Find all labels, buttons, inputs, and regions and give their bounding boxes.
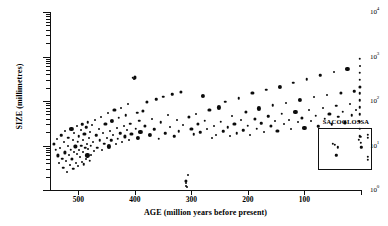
scatter-point — [285, 102, 287, 104]
scatter-point — [62, 166, 65, 169]
scatter-point — [115, 143, 117, 145]
scatter-point — [274, 120, 276, 122]
scatter-point — [169, 126, 171, 128]
scatter-point — [85, 158, 87, 160]
scatter-point — [76, 141, 79, 144]
scatter-point — [138, 130, 142, 134]
scatter-point — [187, 174, 189, 176]
scatter-point — [260, 122, 263, 125]
scatter-point — [83, 163, 86, 166]
scatter-point — [242, 129, 245, 132]
scatter-point — [355, 109, 357, 111]
scatter-point — [141, 109, 144, 112]
scatter-point — [121, 141, 123, 143]
scatter-point — [322, 107, 324, 109]
scatter-point — [244, 110, 247, 113]
scatter-point — [199, 131, 202, 134]
scatter-point — [192, 133, 195, 136]
scatter-point — [125, 114, 128, 117]
scatter-point — [123, 135, 126, 138]
scatter-point — [147, 133, 151, 137]
scatter-point — [75, 162, 77, 164]
scatter-point — [281, 112, 284, 115]
scatter-point — [84, 146, 87, 149]
scatter-point — [359, 113, 362, 116]
scatter-point — [135, 127, 138, 130]
scatter-point — [235, 132, 238, 135]
scatter-point — [301, 116, 304, 119]
scatter-point — [106, 137, 108, 139]
scatter-point — [130, 133, 133, 136]
scatter-point — [133, 76, 136, 79]
scatter-point — [94, 119, 96, 121]
scatter-point — [101, 149, 103, 151]
scatter-point — [197, 123, 200, 126]
scatter-point — [65, 160, 67, 162]
scatter-point — [240, 119, 242, 121]
scatter-point — [89, 144, 92, 147]
scatter-point — [72, 139, 74, 141]
scatter-point — [176, 119, 178, 121]
scatter-point — [112, 134, 114, 136]
scatter-point — [345, 67, 349, 71]
scatter-point — [88, 137, 90, 139]
scatter-point — [56, 138, 58, 140]
scatter-point — [190, 127, 193, 130]
scatter-point — [69, 126, 73, 130]
scatter-point — [180, 90, 183, 93]
scatter-point — [85, 153, 89, 157]
scatter-point — [342, 111, 345, 114]
scatter-point — [104, 122, 107, 125]
scatter-point — [61, 158, 64, 161]
scatter-point — [95, 134, 98, 137]
scatter-point — [359, 65, 361, 67]
scatter-point — [339, 92, 342, 95]
scatter-point — [293, 109, 297, 113]
scatter-point — [80, 144, 83, 147]
scatter-points-layer — [0, 0, 388, 226]
scatter-point — [83, 133, 86, 136]
scatter-point — [86, 143, 88, 145]
scatter-point — [90, 154, 92, 156]
scatter-point — [92, 141, 94, 143]
scatter-point — [238, 97, 241, 100]
scatter-point — [251, 92, 254, 95]
scatter-point — [107, 112, 109, 114]
scatter-point — [67, 145, 69, 147]
scatter-point — [263, 131, 265, 133]
scatter-point — [359, 99, 362, 102]
scatter-point — [60, 134, 63, 137]
scatter-point — [119, 132, 122, 135]
scatter-point — [167, 114, 169, 116]
scatter-point — [292, 81, 295, 84]
scatter-point — [88, 159, 91, 162]
scatter-point — [288, 119, 290, 121]
scatter-point — [313, 96, 315, 98]
scatter-point — [173, 135, 176, 138]
scatter-point — [319, 74, 322, 77]
scatter-point — [87, 121, 90, 124]
scatter-point — [91, 124, 93, 126]
scatter-point — [359, 79, 362, 82]
scatter-point — [253, 117, 256, 120]
scatter-point — [67, 136, 70, 139]
scatter-point — [107, 144, 111, 148]
scatter-point — [102, 132, 104, 134]
scatter-point — [335, 105, 338, 108]
scatter-point — [127, 103, 129, 105]
scatter-point — [73, 151, 75, 153]
scatter-point — [247, 124, 250, 127]
scatter-point — [204, 119, 207, 122]
scatter-point — [96, 146, 99, 149]
scatter-point — [298, 98, 302, 102]
scatter-point — [136, 136, 140, 140]
scatter-point — [211, 137, 213, 139]
scatter-point — [117, 138, 120, 141]
scatter-point — [272, 104, 275, 107]
scatter-point — [188, 115, 191, 118]
scatter-point — [359, 72, 362, 75]
scatter-point — [162, 95, 165, 98]
scatter-point — [110, 119, 114, 123]
scatter-point — [283, 123, 285, 125]
scatter-point — [359, 106, 362, 109]
